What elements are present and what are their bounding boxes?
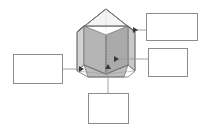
- label-box-top-right[interactable]: [146, 13, 198, 41]
- diagram-canvas: [0, 0, 209, 129]
- label-box-middle-right[interactable]: [148, 48, 188, 77]
- prism-left-side-face: [77, 26, 84, 71]
- label-box-bottom[interactable]: [88, 93, 129, 124]
- prism-right-side-face: [128, 26, 135, 71]
- prism-group: [77, 9, 135, 77]
- label-box-left[interactable]: [13, 54, 63, 84]
